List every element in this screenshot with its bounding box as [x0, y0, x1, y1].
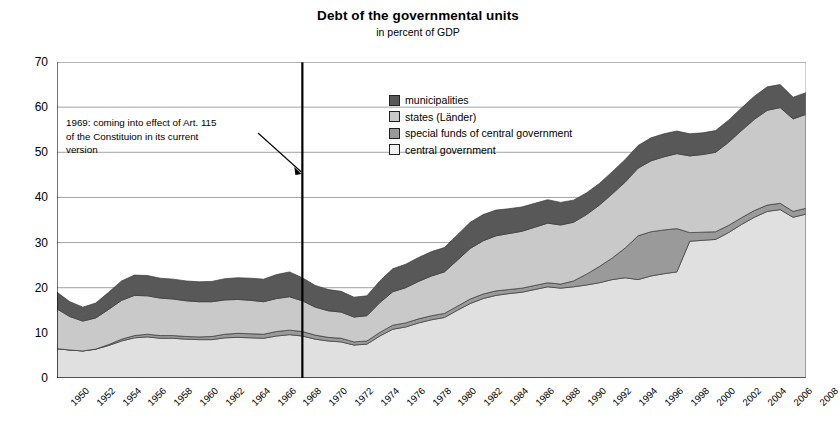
x-axis-tick-1970: 1970 [327, 385, 350, 408]
x-axis-tick-1996: 1996 [662, 385, 685, 408]
annotation-text: 1969: coming into effect of Art. 115of t… [66, 116, 266, 157]
legend-item-special-funds-of-central-government[interactable]: special funds of central government [389, 125, 572, 142]
annotation-line: version [66, 143, 266, 157]
x-axis-tick-1980: 1980 [456, 385, 479, 408]
x-axis-tick-1972: 1972 [352, 385, 375, 408]
legend-label: special funds of central government [405, 127, 572, 139]
chart-subtitle: in percent of GDP [0, 26, 836, 38]
y-axis-tick-50: 50 [14, 147, 48, 157]
x-axis-tick-1988: 1988 [559, 385, 582, 408]
annotation-line: of the Constituion in its current [66, 130, 266, 144]
x-axis-tick-1992: 1992 [611, 385, 634, 408]
x-axis-tick-1952: 1952 [94, 385, 117, 408]
x-axis-tick-1984: 1984 [507, 385, 530, 408]
x-axis-tick-1990: 1990 [585, 385, 608, 408]
x-axis-tick-1998: 1998 [688, 385, 711, 408]
y-axis-tick-10: 10 [14, 328, 48, 338]
legend-label: states (Länder) [405, 111, 476, 123]
x-axis-tick-2002: 2002 [740, 385, 763, 408]
x-axis-tick-1956: 1956 [146, 385, 169, 408]
y-axis-tick-40: 40 [14, 192, 48, 202]
legend-item-states-l-nder[interactable]: states (Länder) [389, 109, 572, 126]
annotation-line: 1969: coming into effect of Art. 115 [66, 116, 266, 130]
legend-label: municipalities [405, 94, 469, 106]
x-axis-tick-1958: 1958 [172, 385, 195, 408]
x-axis-tick-1950: 1950 [68, 385, 91, 408]
legend-label: central government [405, 144, 496, 156]
legend-swatch-icon [389, 95, 400, 106]
x-axis-tick-1968: 1968 [301, 385, 324, 408]
x-axis-tick-2008: 2008 [817, 385, 840, 408]
y-axis-tick-70: 70 [14, 57, 48, 67]
chart-legend: municipalitiesstates (Länder)special fun… [389, 92, 572, 158]
x-axis-tick-1960: 1960 [197, 385, 220, 408]
legend-item-central-government[interactable]: central government [389, 142, 572, 159]
x-axis-tick-1978: 1978 [430, 385, 453, 408]
x-axis-tick-1964: 1964 [249, 385, 272, 408]
x-axis-tick-2000: 2000 [714, 385, 737, 408]
legend-swatch-icon [389, 128, 400, 139]
legend-swatch-icon [389, 144, 400, 155]
x-axis-tick-1986: 1986 [533, 385, 556, 408]
x-axis-tick-labels: 1950195219541956195819601962196419661968… [0, 382, 836, 437]
x-axis-tick-1962: 1962 [223, 385, 246, 408]
x-axis-tick-1976: 1976 [404, 385, 427, 408]
y-axis-tick-60: 60 [14, 102, 48, 112]
legend-item-municipalities[interactable]: municipalities [389, 92, 572, 109]
x-axis-tick-2004: 2004 [766, 385, 789, 408]
legend-swatch-icon [389, 111, 400, 122]
chart-title: Debt of the governmental units [0, 8, 836, 23]
y-axis-tick-30: 30 [14, 238, 48, 248]
x-axis-tick-2006: 2006 [791, 385, 814, 408]
x-axis-tick-1966: 1966 [275, 385, 298, 408]
x-axis-tick-1954: 1954 [120, 385, 143, 408]
y-axis-tick-20: 20 [14, 283, 48, 293]
x-axis-tick-1994: 1994 [636, 385, 659, 408]
x-axis-tick-1982: 1982 [481, 385, 504, 408]
x-axis-tick-1974: 1974 [378, 385, 401, 408]
